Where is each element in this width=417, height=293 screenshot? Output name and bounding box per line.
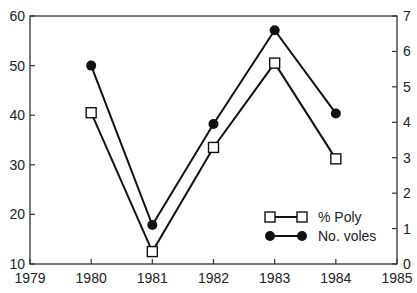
y-right-tick-label: 6 — [403, 43, 411, 59]
y-right-tick-label: 7 — [403, 8, 411, 24]
y-right-tick-label: 0 — [403, 256, 411, 272]
square-marker-icon — [86, 108, 96, 118]
series-line — [91, 63, 336, 251]
square-marker-icon — [331, 154, 341, 164]
y-left-tick-label: 50 — [9, 58, 25, 74]
x-tick-label: 1983 — [259, 270, 290, 286]
circle-marker-icon — [86, 61, 96, 71]
circle-marker-icon — [331, 108, 341, 118]
square-marker-icon — [209, 142, 219, 152]
square-marker-icon — [147, 247, 157, 257]
circle-marker-icon — [270, 25, 280, 35]
legend-voles-label: No. voles — [318, 228, 376, 244]
y-right-tick-label: 4 — [403, 114, 411, 130]
y-right-tick-label: 5 — [403, 79, 411, 95]
circle-marker-icon — [147, 220, 157, 230]
y-right-tick-label: 2 — [403, 185, 411, 201]
x-tick-label: 1979 — [14, 270, 45, 286]
legend-voles-marker-icon — [265, 231, 275, 241]
y-left-tick-label: 30 — [9, 157, 25, 173]
y-left-tick-label: 60 — [9, 8, 25, 24]
x-tick-label: 1980 — [76, 270, 107, 286]
legend: % Poly No. voles — [265, 209, 376, 244]
x-tick-label: 1982 — [198, 270, 229, 286]
plot-frame — [30, 16, 397, 264]
legend-voles-marker-icon — [297, 231, 307, 241]
y-left-tick-label: 40 — [9, 107, 25, 123]
y-right-tick-label: 1 — [403, 221, 411, 237]
dual-axis-line-chart: 1979198019811982198319841985102030405060… — [0, 0, 417, 293]
legend-poly-label: % Poly — [318, 209, 362, 225]
legend-poly-marker-icon — [265, 212, 275, 222]
circle-marker-icon — [209, 119, 219, 129]
x-tick-label: 1985 — [381, 270, 412, 286]
y-right-tick-label: 3 — [403, 150, 411, 166]
x-tick-label: 1984 — [320, 270, 351, 286]
y-left-tick-label: 10 — [9, 256, 25, 272]
y-left-tick-label: 20 — [9, 206, 25, 222]
x-tick-label: 1981 — [137, 270, 168, 286]
square-marker-icon — [270, 58, 280, 68]
legend-poly-marker-icon — [297, 212, 307, 222]
